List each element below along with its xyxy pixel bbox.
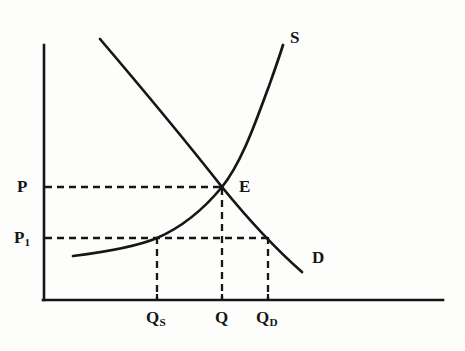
price-axis-label: P bbox=[17, 178, 27, 195]
quantity-axis-label: Q bbox=[215, 309, 228, 326]
supply-demand-chart bbox=[0, 0, 465, 351]
price-low-axis-label: P1 bbox=[14, 229, 30, 246]
quantity-demanded-axis-label: QD bbox=[256, 309, 277, 326]
equilibrium-point-label: E bbox=[239, 178, 250, 195]
supply-curve bbox=[73, 45, 283, 256]
figure-canvas: P P1 QS Q QD S D E bbox=[0, 0, 465, 351]
demand-curve-label: D bbox=[312, 249, 324, 266]
axes bbox=[43, 45, 443, 300]
supply-curve-label: S bbox=[290, 29, 299, 46]
quantity-supplied-axis-label: QS bbox=[146, 309, 165, 326]
